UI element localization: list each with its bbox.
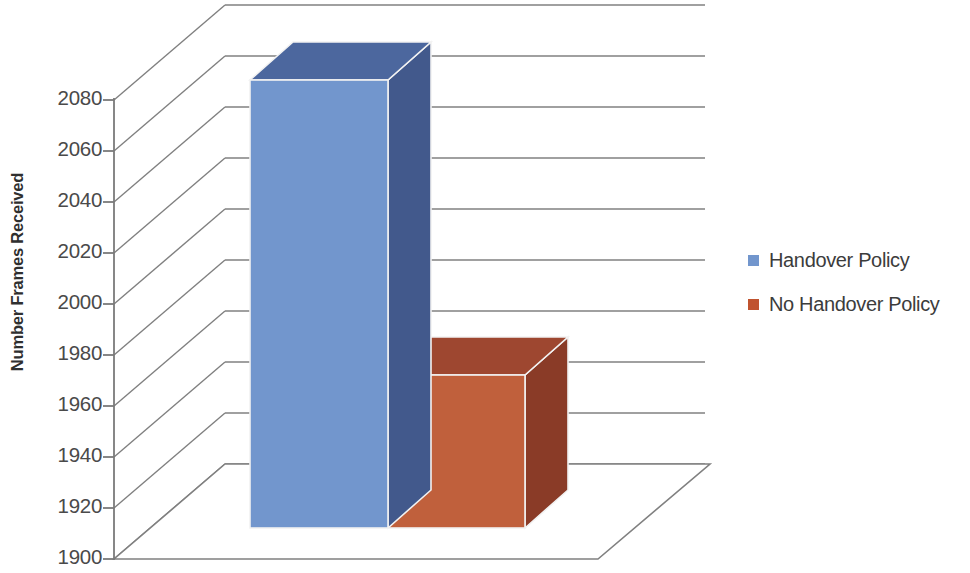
depth-edge-2020 — [114, 158, 225, 253]
depth-edge-1980 — [114, 260, 225, 355]
legend-item-handover-policy[interactable]: Handover Policy — [748, 238, 968, 282]
y-tick-label-1960: 1960 — [30, 394, 102, 415]
y-tick-label-2060: 2060 — [30, 139, 102, 160]
y-tick-label-1940: 1940 — [30, 445, 102, 466]
chart-legend: Handover Policy No Handover Policy — [748, 238, 968, 326]
legend-label-no-handover-policy: No Handover Policy — [769, 293, 939, 316]
legend-swatch-blue-icon — [748, 255, 759, 266]
depth-edge-1960 — [114, 311, 225, 406]
bar-handover-policy-side — [388, 42, 431, 528]
chart-container: 2080 2060 2040 2020 2000 1980 1960 1940 … — [0, 0, 970, 573]
y-tick-label-2040: 2040 — [30, 190, 102, 211]
depth-edge-2000 — [114, 209, 225, 304]
y-tick-label-2020: 2020 — [30, 241, 102, 262]
y-axis-title: Number Frames Received — [8, 152, 30, 392]
legend-item-no-handover-policy[interactable]: No Handover Policy — [748, 282, 968, 326]
y-tick-label-1920: 1920 — [30, 496, 102, 517]
legend-swatch-red-icon — [748, 299, 759, 310]
y-tick-label-1980: 1980 — [30, 343, 102, 364]
y-tick-label-2080: 2080 — [30, 88, 102, 109]
depth-edge-2040 — [114, 107, 225, 202]
depth-edge-2060 — [114, 56, 225, 151]
depth-edge-2080 — [114, 5, 225, 100]
bar-handover-policy — [250, 42, 431, 528]
depth-edge-1940 — [114, 362, 225, 457]
y-tick-label-2000: 2000 — [30, 292, 102, 313]
side-wall-edges — [114, 5, 225, 559]
y-tick-label-1900: 1900 — [30, 547, 102, 568]
y-axis — [103, 98, 114, 560]
bar-handover-policy-front — [250, 80, 388, 528]
legend-label-handover-policy: Handover Policy — [769, 249, 909, 272]
y-axis-tick-labels: 2080 2060 2040 2020 2000 1980 1960 1940 … — [30, 0, 102, 573]
